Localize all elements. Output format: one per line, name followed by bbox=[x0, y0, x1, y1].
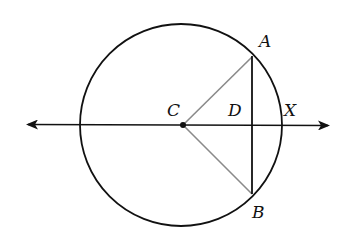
segment-ca bbox=[183, 57, 252, 125]
segment-cb bbox=[183, 125, 252, 194]
center-point bbox=[180, 122, 186, 128]
label-x: X bbox=[282, 100, 297, 120]
label-c: C bbox=[167, 100, 180, 120]
line-through-center bbox=[28, 125, 328, 126]
circle-diagram: A B C D X bbox=[0, 0, 348, 240]
label-b: B bbox=[251, 202, 265, 222]
label-d: D bbox=[227, 100, 242, 120]
label-a: A bbox=[257, 31, 271, 51]
